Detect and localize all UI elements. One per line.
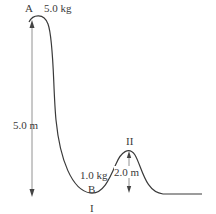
point-1-label: I bbox=[90, 202, 94, 214]
roller-track-diagram: A 5.0 kg 5.0 m 1.0 kg B I II 2.0 m bbox=[0, 0, 216, 214]
height-arrow-a bbox=[30, 20, 35, 197]
height-2-label: 2.0 m bbox=[114, 166, 139, 178]
point-b-label: B bbox=[88, 183, 95, 195]
track-graphic bbox=[0, 0, 216, 214]
mass-a-label: 5.0 kg bbox=[44, 2, 72, 14]
mass-b-label: 1.0 kg bbox=[80, 169, 108, 181]
point-a-label: A bbox=[25, 2, 33, 14]
height-a-label: 5.0 m bbox=[13, 119, 38, 131]
point-2-label: II bbox=[126, 135, 133, 147]
